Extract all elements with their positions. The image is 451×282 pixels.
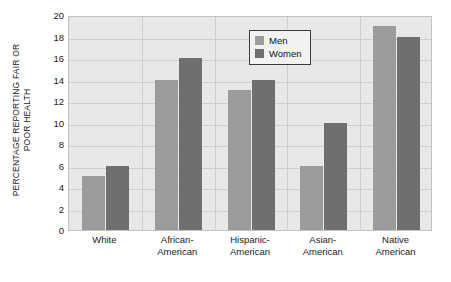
y-axis-tick-label: 4 (38, 183, 64, 193)
y-axis-tick-label: 14 (38, 76, 64, 86)
bar-chart: PERCENTAGE REPORTING FAIR OR POOR HEALTH… (0, 0, 451, 282)
legend-item-men: Men (255, 34, 302, 47)
x-axis-tick-label: Hispanic-American (214, 234, 287, 257)
y-axis-tick-labels: 20181614121086420 (36, 0, 64, 282)
y-axis-title-line-2: POOR HEALTH (22, 44, 33, 197)
legend: Men Women (249, 30, 311, 65)
bar-men-white (82, 176, 105, 230)
y-axis-title-line-1: PERCENTAGE REPORTING FAIR OR (11, 44, 22, 197)
y-axis-tick-label: 2 (38, 205, 64, 215)
x-axis-tick-label-line: African- (141, 234, 214, 246)
bar-men-asian-american (300, 166, 323, 231)
legend-swatch-women-icon (255, 49, 264, 58)
y-axis-tick-label: 20 (38, 11, 64, 21)
gridline-vertical (142, 17, 143, 230)
bar-women-asian-american (324, 123, 347, 231)
x-axis-tick-label: Asian-American (286, 234, 359, 257)
bar-women-white (106, 166, 129, 231)
legend-swatch-men-icon (255, 36, 264, 45)
bar-men-native-american (373, 26, 396, 230)
x-axis-tick-label-line: American (214, 246, 287, 258)
y-axis-tick-label: 8 (38, 140, 64, 150)
y-axis-tick-label: 10 (38, 119, 64, 129)
bar-men-hispanic-american (228, 90, 251, 230)
bar-women-hispanic-american (252, 80, 275, 231)
legend-item-women: Women (255, 47, 302, 60)
legend-label-women: Women (269, 48, 302, 59)
bar-women-native-american (397, 37, 420, 231)
y-axis-tick-label: 16 (38, 54, 64, 64)
y-axis-tick-label: 18 (38, 33, 64, 43)
bar-women-african-american (179, 58, 202, 230)
gridline-vertical (215, 17, 216, 230)
y-axis-tick-label: 6 (38, 162, 64, 172)
x-axis-tick-label-line: American (359, 246, 432, 258)
x-axis-tick-label-line: American (286, 246, 359, 258)
x-axis-tick-labels: WhiteAfrican-AmericanHispanic-AmericanAs… (68, 234, 432, 278)
x-axis-tick-label-line: Asian- (286, 234, 359, 246)
y-axis-tick-label: 0 (38, 226, 64, 236)
x-axis-tick-label: White (68, 234, 141, 246)
x-axis-tick-label: African-American (141, 234, 214, 257)
y-axis-tick-label: 12 (38, 97, 64, 107)
bar-men-african-american (155, 80, 178, 231)
x-axis-tick-label-line: Native (359, 234, 432, 246)
x-axis-tick-label-line: Hispanic- (214, 234, 287, 246)
legend-label-men: Men (269, 35, 287, 46)
x-axis-tick-label: NativeAmerican (359, 234, 432, 257)
x-axis-tick-label-line: American (141, 246, 214, 258)
gridline-vertical (360, 17, 361, 230)
x-axis-tick-label-line: White (68, 234, 141, 246)
